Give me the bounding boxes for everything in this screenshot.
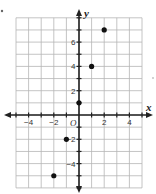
x-axis-left-arrow-icon — [4, 112, 11, 118]
origin-label: O — [70, 118, 77, 128]
x-tick-label: −4 — [24, 118, 34, 127]
data-point — [64, 137, 69, 142]
y-axis-label: y — [82, 7, 89, 19]
data-point — [89, 64, 94, 69]
coordinate-plane: −4−224642−2−4 x y O — [0, 0, 156, 194]
y-tick-label: 6 — [71, 38, 76, 47]
x-tick-label: 4 — [127, 118, 132, 127]
y-axis-bottom-arrow-icon — [76, 186, 82, 193]
scan-artifact-dot — [152, 77, 154, 79]
y-tick-label: 4 — [71, 62, 76, 71]
scan-artifact-dot — [1, 10, 3, 12]
data-point — [76, 100, 81, 105]
y-axis-top-arrow-icon — [76, 9, 82, 16]
data-point — [51, 173, 56, 178]
x-tick-label: 2 — [102, 118, 107, 127]
y-tick-label: −4 — [66, 160, 76, 169]
x-tick-label: −2 — [49, 118, 59, 127]
y-tick-label: 2 — [71, 87, 76, 96]
data-point — [102, 27, 107, 32]
x-axis-label: x — [145, 101, 152, 113]
